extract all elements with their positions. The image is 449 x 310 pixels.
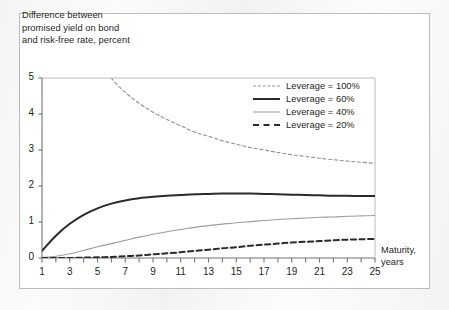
figure-page: Difference between promised yield on bon… xyxy=(0,0,449,310)
y-tick-label: 1 xyxy=(18,215,34,226)
x-tick-label: 23 xyxy=(338,266,356,277)
legend-item-label: Leverage = 40% xyxy=(286,107,355,117)
legend-item-label: Leverage = 60% xyxy=(286,94,355,104)
y-tick-label: 2 xyxy=(18,179,34,190)
x-axis-title-line-2: years xyxy=(381,256,435,268)
x-tick-label: 9 xyxy=(144,266,162,277)
x-tick-label: 7 xyxy=(116,266,134,277)
x-tick-label: 11 xyxy=(172,266,190,277)
x-tick-label: 13 xyxy=(200,266,218,277)
x-tick-label: 17 xyxy=(255,266,273,277)
legend-item-label: Leverage = 100% xyxy=(286,81,360,91)
series-line xyxy=(42,194,375,251)
x-axis-title: Maturity, years xyxy=(381,244,435,268)
legend-line-sample-icon xyxy=(253,120,280,130)
legend-line-sample-icon xyxy=(253,107,280,117)
y-tick-label: 0 xyxy=(18,251,34,262)
legend-item[interactable]: Leverage = 100% xyxy=(253,79,373,92)
y-tick-label: 4 xyxy=(18,107,34,118)
legend-item-label: Leverage = 20% xyxy=(286,120,355,130)
series-line xyxy=(42,216,375,258)
legend-item[interactable]: Leverage = 40% xyxy=(253,105,373,118)
x-tick-label: 21 xyxy=(311,266,329,277)
x-tick-label: 19 xyxy=(283,266,301,277)
legend-line-sample-icon xyxy=(253,94,280,104)
legend-item[interactable]: Leverage = 20% xyxy=(253,119,373,132)
y-tick-label: 5 xyxy=(18,71,34,82)
x-axis-title-line-1: Maturity, xyxy=(381,244,435,256)
legend: Leverage = 100% Leverage = 60% Leverage … xyxy=(253,79,373,132)
x-tick-label: 3 xyxy=(61,266,79,277)
legend-item[interactable]: Leverage = 60% xyxy=(253,92,373,105)
legend-line-sample-icon xyxy=(253,81,280,91)
x-tick-label: 1 xyxy=(33,266,51,277)
y-tick-label: 3 xyxy=(18,143,34,154)
x-tick-label: 15 xyxy=(227,266,245,277)
x-tick-label: 5 xyxy=(89,266,107,277)
